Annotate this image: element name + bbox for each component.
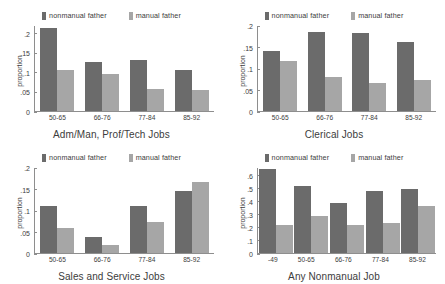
y-axis-tick: .6	[247, 172, 257, 179]
x-axis-tick: 77-84	[138, 114, 155, 121]
bars-container	[258, 26, 436, 111]
bar-nonmanual	[294, 186, 311, 253]
x-axis-tick: 85-92	[183, 256, 200, 263]
bar-group	[401, 168, 435, 253]
y-axis-tick: .05	[243, 87, 257, 94]
y-axis-tick: .15	[20, 186, 34, 193]
y-axis-label: proportion	[16, 197, 23, 229]
bar-nonmanual	[259, 169, 276, 253]
bar-nonmanual	[352, 33, 369, 111]
x-axis-tick: 85-92	[409, 256, 426, 263]
bar-group	[175, 26, 209, 111]
bar-group	[85, 26, 119, 111]
legend-label-manual: manual father	[136, 153, 181, 162]
x-axis-tick: 50-65	[49, 256, 66, 263]
y-axis-tick: .1	[24, 208, 34, 215]
plot-area: 0.1.2.3.4.5.6	[257, 168, 436, 254]
chart-panel-2: nonmanual fathermanual fatherproportion0…	[223, 0, 445, 142]
bar-manual	[311, 216, 328, 253]
bar-group	[40, 26, 74, 111]
bar-group	[130, 168, 164, 253]
legend-swatch-manual	[129, 12, 133, 20]
bar-manual	[147, 222, 164, 253]
x-axis-tick: 77-84	[361, 114, 378, 121]
x-axis-ticks: 50-6566-7677-8485-92	[258, 114, 436, 124]
x-axis-tick: 66-76	[335, 256, 352, 263]
legend-label-manual: manual father	[358, 153, 403, 162]
bar-nonmanual	[175, 70, 192, 111]
x-axis-ticks: 50-6566-7677-8485-92	[35, 256, 214, 266]
x-axis-line	[34, 253, 214, 254]
chart-title: Clerical Jobs	[223, 129, 445, 140]
bar-nonmanual	[401, 189, 418, 253]
bar-nonmanual	[330, 203, 347, 253]
bar-nonmanual	[175, 191, 192, 253]
x-axis-ticks: -4950-6566-7677-8485-92	[258, 256, 436, 266]
legend-label-nonmanual: nonmanual father	[272, 11, 330, 20]
bar-manual	[383, 223, 400, 253]
legend-entry-nonmanual: nonmanual father	[265, 11, 330, 20]
x-axis-tick: 85-92	[183, 114, 200, 121]
bar-manual	[57, 70, 74, 111]
bar-group	[175, 168, 209, 253]
y-axis-tick: .1	[247, 66, 257, 73]
plot-area: 0.05.1.15.2	[257, 26, 436, 112]
chart-grid: nonmanual fathermanual fatherproportion0…	[0, 0, 445, 284]
bar-group	[352, 26, 386, 111]
bar-manual	[102, 74, 119, 111]
x-axis-tick: 50-65	[49, 114, 66, 121]
legend-swatch-manual	[129, 154, 133, 162]
bar-nonmanual	[85, 62, 102, 111]
chart-panel-4: nonmanual fathermanual fatherproportion0…	[223, 142, 445, 284]
legend-label-manual: manual father	[136, 11, 181, 20]
x-axis-line	[34, 111, 214, 112]
plot-area: 0.05.1.15.2	[34, 26, 214, 112]
y-axis-tick: .5	[247, 185, 257, 192]
y-axis-tick: .15	[20, 50, 34, 57]
bar-nonmanual	[40, 28, 57, 111]
y-axis-tick: .15	[243, 44, 257, 51]
chart-legend: nonmanual fathermanual father	[0, 153, 223, 162]
y-axis-tick: .05	[20, 229, 34, 236]
x-axis-line	[257, 253, 436, 254]
y-axis-tick: .05	[20, 89, 34, 96]
bar-nonmanual	[130, 206, 147, 253]
bar-group	[330, 168, 364, 253]
bar-group	[259, 168, 293, 253]
legend-label-nonmanual: nonmanual father	[49, 153, 107, 162]
legend-entry-manual: manual father	[129, 11, 181, 20]
bar-group	[397, 26, 431, 111]
bar-group	[263, 26, 297, 111]
bar-manual	[280, 61, 297, 111]
y-axis-label: proportion	[239, 197, 246, 229]
legend-entry-nonmanual: nonmanual father	[42, 153, 107, 162]
bar-nonmanual	[40, 206, 57, 253]
bar-manual	[325, 77, 342, 111]
chart-legend: nonmanual fathermanual father	[223, 11, 445, 20]
legend-swatch-manual	[351, 12, 355, 20]
x-axis-tick: 66-76	[316, 114, 333, 121]
y-axis-tick: 0	[26, 251, 34, 258]
bar-manual	[276, 225, 293, 253]
chart-title: Adm/Man, Prof/Tech Jobs	[0, 129, 223, 140]
legend-entry-manual: manual father	[351, 11, 403, 20]
chart-legend: nonmanual fathermanual father	[223, 153, 445, 162]
legend-swatch-manual	[351, 154, 355, 162]
x-axis-tick: 50-65	[298, 256, 315, 263]
y-axis-tick: .4	[247, 198, 257, 205]
chart-panel-3: nonmanual fathermanual fatherproportion0…	[0, 142, 223, 284]
y-axis-tick: .2	[24, 30, 34, 37]
y-axis-tick: 0	[249, 251, 257, 258]
bar-group	[366, 168, 400, 253]
bar-manual	[418, 206, 435, 253]
legend-entry-manual: manual father	[351, 153, 403, 162]
bars-container	[35, 26, 214, 111]
legend-entry-nonmanual: nonmanual father	[42, 11, 107, 20]
x-axis-tick: 85-92	[405, 114, 422, 121]
bar-group	[294, 168, 328, 253]
chart-panel-1: nonmanual fathermanual fatherproportion0…	[0, 0, 223, 142]
bar-manual	[102, 245, 119, 253]
chart-title: Any Nonmanual Job	[223, 271, 445, 282]
legend-swatch-nonmanual	[265, 154, 269, 162]
x-axis-tick: 77-84	[372, 256, 389, 263]
